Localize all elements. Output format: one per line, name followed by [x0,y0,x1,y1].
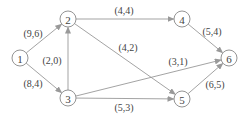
node-label: 2 [65,14,71,26]
node-6: 6 [221,50,237,66]
edge-label: (2,0) [42,55,61,67]
node-label: 6 [226,53,232,65]
edge-label: (5,3) [114,102,133,114]
arrow-icon [76,98,174,99]
node-label: 5 [179,94,185,106]
edge-label: (6,5) [205,79,224,91]
node-label: 4 [179,14,185,26]
node-3: 3 [60,90,76,106]
node-1: 1 [12,50,28,66]
edge-label: (4,2) [118,42,137,54]
node-2: 2 [60,11,76,27]
network-graph: (9,6)(8,4)(2,0)(4,4)(4,2)(3,1)(5,3)(5,4)… [0,0,245,116]
edge-label: (4,4) [114,5,133,17]
node-5: 5 [174,91,190,107]
node-label: 3 [65,93,71,105]
edge-3-6 [76,60,221,96]
edge-label: (9,6) [23,28,42,40]
edge-3-5 [76,98,174,99]
arrow-icon [76,60,221,96]
node-label: 1 [17,53,23,65]
edge-label: (5,4) [202,26,221,38]
node-4: 4 [174,11,190,27]
edge-label: (8,4) [23,78,42,90]
edge-label: (3,1) [168,56,187,68]
